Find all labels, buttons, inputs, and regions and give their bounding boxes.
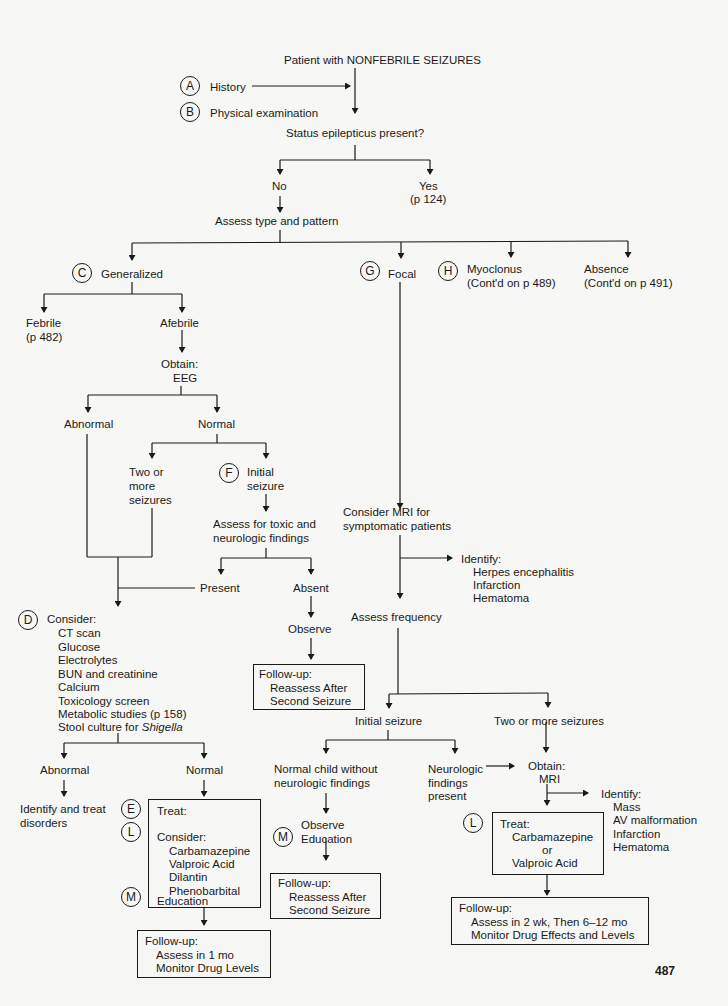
treat-box-1: Treat: Consider: Carbamazepine Valproic … (148, 799, 261, 908)
consider-item: Metabolic studies (p 158) (58, 707, 186, 721)
consider-item: Glucose (58, 640, 100, 654)
type-generalized: Generalized (101, 267, 163, 281)
treat-label: Treat: (500, 817, 530, 831)
eeg-label: EEG (173, 371, 197, 385)
initial-seizure-l1: Initial (247, 465, 274, 479)
consider-normal: Normal (186, 763, 223, 777)
followup-head: Follow-up: (459, 901, 512, 915)
marker-c: C (72, 263, 92, 283)
consider-item: BUN and creatinine (58, 667, 158, 681)
identify-item: Hematoma (473, 591, 529, 605)
neuro-present-l3: present (428, 789, 466, 803)
drug-item: Carbamazepine (169, 844, 250, 858)
febrile: Febrile (26, 316, 61, 330)
obtain-label: Obtain: (161, 357, 198, 371)
physical-exam-label: Physical examination (210, 106, 318, 120)
consider-item: Electrolytes (58, 653, 117, 667)
assess-toxic-l2: neurologic findings (213, 531, 309, 545)
consider-item-stool: Stool culture for Shigella (58, 720, 183, 734)
marker-h: H (438, 261, 458, 281)
observe-label: Observe (288, 622, 331, 636)
neuro-present-l1: Neurologic (428, 762, 483, 776)
marker-f: F (219, 463, 239, 483)
absence-ref: (Cont'd on p 491) (584, 276, 673, 290)
followup-line: Assess in 1 mo (156, 948, 234, 962)
afebrile: Afebrile (160, 316, 199, 330)
stool-prefix: Stool culture for (58, 721, 142, 733)
identify-item: Infarction (473, 578, 520, 592)
marker-l-focal: L (463, 813, 483, 833)
type-myoclonus: Myoclonus (467, 262, 522, 276)
marker-m-focal: M (273, 827, 293, 847)
observe-focal: Observe (301, 818, 344, 832)
marker-e: E (121, 799, 141, 819)
education-label: Education (157, 894, 208, 908)
page-number: 487 (655, 964, 675, 978)
followup-line: Reassess After (270, 681, 347, 695)
two-or-more-l1: Two or (129, 465, 164, 479)
followup-line: Reassess After (289, 890, 366, 904)
identify-treat-l2: disorders (20, 816, 67, 830)
status-yes: Yes (419, 179, 438, 193)
drug-item: Dilantin (169, 870, 207, 884)
febrile-ref: (p 482) (26, 330, 62, 344)
eeg-normal: Normal (198, 417, 235, 431)
history-label: History (210, 80, 246, 94)
identify-item: Hematoma (613, 840, 669, 854)
marker-b: B (180, 102, 200, 122)
marker-d: D (18, 610, 38, 630)
two-or-more-l3: seizures (129, 493, 172, 507)
identify-item: AV malformation (613, 813, 697, 827)
drug-item: Carbamazepine (512, 830, 593, 844)
toxic-absent: Absent (293, 581, 329, 595)
consider-mri-l2: symptomatic patients (343, 519, 451, 533)
freq-initial: Initial seizure (355, 714, 422, 728)
assess-type: Assess type and pattern (215, 214, 338, 228)
followup-line: Second Seizure (289, 903, 370, 917)
freq-two-or-more: Two or more seizures (494, 714, 604, 728)
consider-abnormal: Abnormal (40, 763, 89, 777)
marker-a: A (180, 76, 200, 96)
consider-head: Consider: (47, 612, 96, 626)
status-question: Status epilepticus present? (286, 126, 424, 140)
mri-label: MRI (539, 772, 560, 786)
status-no: No (272, 179, 287, 193)
identify-head-1: Identify: (461, 552, 501, 566)
identify-head-2: Identify: (601, 787, 641, 801)
consider-item: Calcium (58, 680, 100, 694)
followup-line: Monitor Drug Effects and Levels (471, 928, 634, 942)
followup-head: Follow-up: (278, 876, 331, 890)
followup-line: Assess in 2 wk, Then 6–12 mo (471, 915, 627, 929)
identify-treat-l1: Identify and treat (20, 802, 106, 816)
marker-g: G (360, 261, 380, 281)
followup-box-3: Follow-up: Reassess After Second Seizure (270, 873, 381, 919)
obtain-mri-head: Obtain: (528, 759, 565, 773)
identify-item: Mass (613, 800, 640, 814)
or-label: or (542, 843, 552, 857)
marker-l: L (121, 822, 141, 842)
consider-item: CT scan (58, 626, 101, 640)
myoclonus-ref: (Cont'd on p 489) (467, 276, 556, 290)
consider-mri-l1: Consider MRI for (343, 505, 430, 519)
flowchart-connectors (0, 0, 728, 1006)
identify-item: Herpes encephalitis (473, 565, 574, 579)
shigella: Shigella (142, 721, 183, 733)
consider-item: Toxicology screen (58, 694, 149, 708)
title: Patient with NONFEBRILE SEIZURES (284, 53, 481, 67)
two-or-more-l2: more (129, 479, 155, 493)
treat-box-2: Treat: Carbamazepine or Valproic Acid (492, 812, 604, 875)
consider-label: Consider: (157, 830, 206, 844)
identify-item: Infarction (613, 827, 660, 841)
assess-frequency: Assess frequency (351, 610, 442, 624)
education-focal: Education (301, 832, 352, 846)
followup-line: Monitor Drug Levels (156, 961, 259, 975)
toxic-present: Present (200, 581, 240, 595)
followup-head: Follow-up: (145, 934, 198, 948)
treat-label: Treat: (157, 804, 187, 818)
followup-head: Follow-up: (259, 667, 312, 681)
type-absence: Absence (584, 262, 629, 276)
normal-child-l2: neurologic findings (274, 776, 370, 790)
followup-box-2: Follow-up: Assess in 1 mo Monitor Drug L… (137, 930, 271, 978)
followup-box-4: Follow-up: Assess in 2 wk, Then 6–12 mo … (451, 897, 649, 945)
drug-item: Valproic Acid (169, 857, 235, 871)
